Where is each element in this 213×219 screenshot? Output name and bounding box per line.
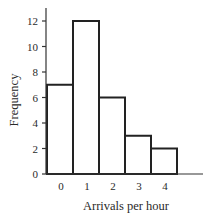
- bars-group: [47, 21, 177, 174]
- bar-2: [99, 98, 125, 175]
- x-tick-label: 1: [84, 180, 90, 192]
- y-tick-label: 2: [33, 143, 39, 155]
- bar-4: [151, 149, 177, 175]
- x-tick-label: 0: [58, 180, 64, 192]
- x-ticks-group: 01234: [58, 180, 168, 192]
- bar-0: [47, 85, 73, 174]
- x-tick-label: 4: [162, 180, 168, 192]
- y-tick-label: 12: [27, 15, 38, 27]
- y-axis-label: Frequency: [7, 73, 21, 127]
- y-tick-label: 8: [33, 66, 39, 78]
- bar-1: [73, 21, 99, 174]
- x-axis-label: Arrivals per hour: [83, 199, 170, 213]
- y-ticks-group: 024681012: [27, 15, 46, 180]
- bar-3: [125, 136, 151, 174]
- y-tick-label: 10: [27, 41, 39, 53]
- x-tick-label: 2: [110, 180, 116, 192]
- y-tick-label: 6: [33, 92, 39, 104]
- x-tick-label: 3: [136, 180, 142, 192]
- y-tick-label: 0: [33, 168, 39, 180]
- histogram-chart: 024681012 01234 Arrivals per hour Freque…: [0, 0, 213, 219]
- y-tick-label: 4: [33, 117, 39, 129]
